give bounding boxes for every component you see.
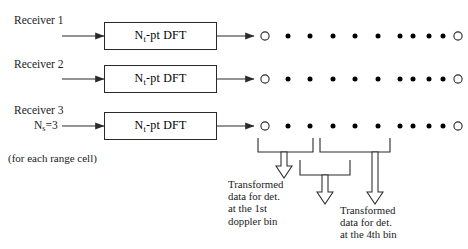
dft-box-1-label: Nt-pt DFT — [135, 28, 187, 44]
receiver-input-arrows — [62, 36, 104, 126]
annotation-fourth-line-2: data for det. — [340, 216, 397, 228]
dft-output-arrows — [216, 36, 254, 126]
annotation-fourth-line-1: Transformed — [340, 204, 397, 216]
ns-label-value: =3 — [45, 119, 57, 131]
bin-row-3 — [261, 122, 462, 130]
dft-box-2-label: Nt-pt DFT — [135, 71, 187, 87]
range-cell-note: (for each range cell) — [8, 152, 97, 164]
annotation-first-doppler-bin: Transformed data for det. at the 1st dop… — [228, 178, 283, 227]
ns-label: Ns=3 — [34, 119, 58, 133]
annotation-fourth-bin: Transformed data for det. at the 4th bin — [340, 204, 397, 241]
bin-marker-rows — [261, 32, 462, 130]
annotation-fourth-line-3: at the 4th bin — [340, 228, 397, 240]
annotation-first-line-2: data for det. — [228, 190, 283, 202]
bin-row-1 — [261, 32, 462, 40]
receiver-3-label: Receiver 3 — [14, 104, 64, 116]
bin-row-2 — [261, 75, 462, 83]
bracket-outer — [320, 138, 390, 152]
hollow-arrow-first-bin — [276, 152, 292, 178]
bracket-first-bin — [258, 138, 313, 152]
annotation-first-line-4: doppler bin — [228, 215, 283, 227]
annotation-first-line-1: Transformed — [228, 178, 283, 190]
bracket-inner — [300, 160, 350, 175]
dft-box-receiver-2[interactable]: Nt-pt DFT — [104, 65, 217, 93]
hollow-arrow-middle — [317, 175, 333, 204]
receiver-2-label: Receiver 2 — [14, 58, 64, 70]
hollow-arrow-fourth-bin — [367, 152, 383, 204]
dft-box-receiver-1[interactable]: Nt-pt DFT — [104, 22, 217, 50]
annotation-first-line-3: at the 1st — [228, 202, 283, 214]
hollow-arrows — [276, 152, 383, 204]
receiver-1-label: Receiver 1 — [14, 14, 64, 26]
dft-box-3-label: Nt-pt DFT — [135, 118, 187, 134]
dft-box-receiver-3[interactable]: Nt-pt DFT — [104, 112, 217, 140]
